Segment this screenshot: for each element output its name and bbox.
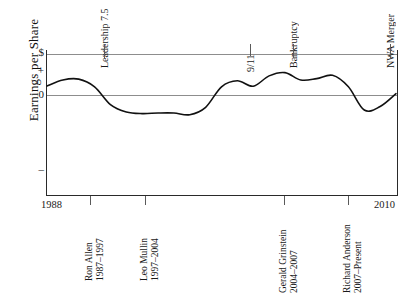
earnings-per-share-curve bbox=[47, 72, 396, 114]
series-plot-area bbox=[0, 0, 420, 295]
earnings-per-share-chart: Earnings per Share $ + 0 – 1988 2010 Lea… bbox=[0, 0, 420, 295]
